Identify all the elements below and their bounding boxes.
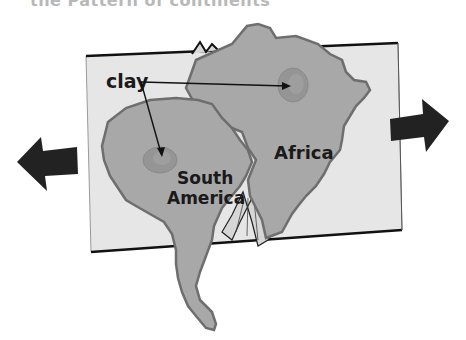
south-america-label-line2: America (167, 188, 245, 208)
africa-label: Africa (274, 142, 334, 163)
continental-drift-diagram: clay Africa South America (0, 0, 466, 340)
left-arrow-icon (17, 137, 78, 191)
south-america-label-line1: South (177, 168, 233, 188)
